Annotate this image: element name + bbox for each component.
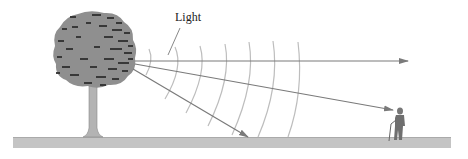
light-label: Light bbox=[175, 10, 201, 25]
diagram-canvas bbox=[0, 0, 468, 159]
wavefront-7 bbox=[288, 42, 300, 137]
wavefront-3 bbox=[186, 46, 202, 113]
ray-to-ground bbox=[133, 69, 248, 137]
tree-trunk bbox=[83, 86, 103, 137]
wavefront-1 bbox=[146, 49, 151, 75]
wavefront-5 bbox=[232, 42, 251, 135]
tree-crown bbox=[53, 11, 136, 88]
diagram: Light bbox=[0, 0, 468, 159]
ray-to-observer bbox=[135, 64, 393, 110]
light-label-leader bbox=[168, 28, 180, 55]
ground bbox=[13, 137, 451, 148]
wavefront-4 bbox=[208, 44, 227, 126]
observer-person bbox=[389, 108, 405, 142]
